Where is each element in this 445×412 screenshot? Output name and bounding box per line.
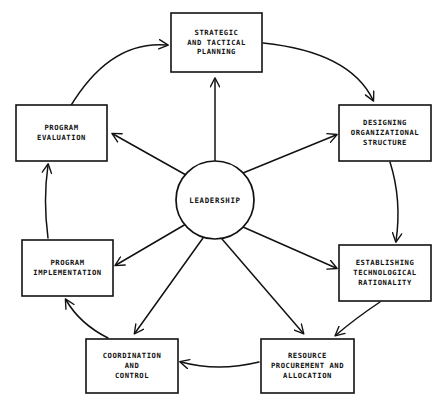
node-program-evaluation[interactable]: PROGRAMEVALUATION: [16, 105, 107, 161]
node-label-line: PROGRAM: [50, 258, 84, 267]
node-label-line: PROCUREMENT AND: [271, 361, 344, 370]
arrow-program-evaluation-to-strategic-planning: [70, 45, 167, 107]
node-strategic-and-tactical-planning[interactable]: STRATEGICAND TACTICALPLANNING: [171, 13, 262, 72]
arrow-coordination-control-to-program-implementation: [66, 300, 108, 338]
node-establishing-technological-rationality[interactable]: ESTABLISHINGTECHNOLOGICALRATIONALITY: [339, 245, 431, 301]
node-label-line: RATIONALITY: [358, 278, 412, 287]
node-resource-procurement-and-allocation[interactable]: RESOURCEPROCUREMENT ANDALLOCATION: [261, 339, 354, 393]
node-label-line: ORGANIZATIONAL: [351, 128, 419, 137]
node-program-implementation[interactable]: PROGRAMIMPLEMENTATION: [22, 240, 113, 296]
node-label-line: AND: [125, 361, 140, 370]
node-label-line: PROGRAM: [44, 123, 78, 132]
arrow-designing-structure-to-establishing-rationality: [390, 162, 398, 241]
node-label-line: RESOURCE: [288, 351, 327, 360]
hub-group: LEADERSHIP: [176, 161, 254, 239]
node-label-line: TECHNOLOGICAL: [353, 268, 417, 277]
node-label-line: EVALUATION: [37, 133, 86, 142]
hub-label-leadership: LEADERSHIP: [189, 196, 241, 205]
spoke-hub-to-coordination-and-control: [135, 238, 203, 333]
spoke-hub-to-program-implementation: [116, 224, 186, 265]
node-label-line: PLANNING: [197, 47, 236, 56]
spoke-hub-to-program-evaluation: [113, 134, 186, 175]
arrow-program-implementation-to-program-evaluation: [46, 165, 49, 238]
arrow-resource-procurement-to-coordination-control: [181, 362, 259, 367]
leadership-cycle-diagram: STRATEGICAND TACTICALPLANNINGDESIGNINGOR…: [0, 0, 445, 412]
spoke-hub-to-establishing-technological-rationality: [243, 227, 336, 268]
diagram-canvas: STRATEGICAND TACTICALPLANNINGDESIGNINGOR…: [0, 0, 445, 412]
node-label-line: ESTABLISHING: [356, 258, 415, 267]
arrow-establishing-rationality-to-resource-procurement: [336, 302, 380, 335]
node-label-establishing-technological-rationality: ESTABLISHINGTECHNOLOGICALRATIONALITY: [353, 258, 417, 286]
node-label-program-evaluation: PROGRAMEVALUATION: [37, 123, 86, 142]
node-label-line: CONTROL: [115, 371, 149, 380]
arrow-strategic-planning-to-designing-structure: [263, 43, 373, 100]
node-designing-organizational-structure[interactable]: DESIGNINGORGANIZATIONALSTRUCTURE: [339, 105, 431, 161]
node-label-line: STRATEGIC: [195, 28, 239, 37]
node-label-line: ALLOCATION: [283, 371, 332, 380]
spoke-hub-to-resource-procurement-and-allocation: [222, 239, 303, 333]
node-label-line: COORDINATION: [103, 351, 162, 360]
node-coordination-and-control[interactable]: COORDINATIONANDCONTROL: [86, 339, 178, 393]
node-label-line: IMPLEMENTATION: [33, 268, 101, 277]
node-label-line: STRUCTURE: [363, 138, 407, 147]
node-label-line: AND TACTICAL: [187, 37, 246, 46]
node-label-line: DESIGNING: [363, 118, 407, 127]
spoke-hub-to-designing-organizational-structure: [243, 135, 336, 173]
